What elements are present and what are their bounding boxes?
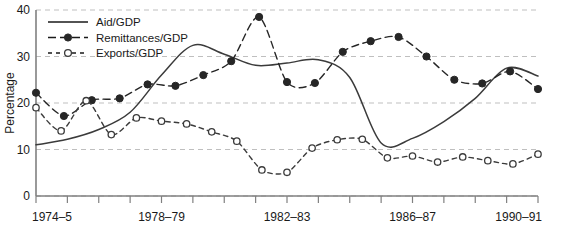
data-point [108, 131, 114, 137]
data-point [460, 154, 466, 160]
data-point [485, 157, 491, 163]
data-point [209, 129, 215, 135]
data-point [228, 58, 235, 65]
data-point [510, 161, 516, 167]
data-point [423, 53, 430, 60]
y-axis-title: Percentage [3, 72, 17, 134]
legend-marker-filled-circle [64, 34, 71, 41]
data-point [83, 97, 89, 103]
x-tick-label: 1974–5 [32, 210, 72, 224]
data-point [507, 68, 514, 75]
data-point [384, 155, 390, 161]
series-exports-gdp [33, 97, 541, 175]
data-point [172, 82, 179, 89]
data-point [200, 72, 207, 79]
data-point [311, 79, 318, 86]
y-tick-label: 30 [17, 50, 31, 64]
data-point [234, 138, 240, 144]
legend-marker-open-circle [65, 50, 72, 57]
legend-label: Aid/GDP [96, 16, 141, 28]
y-tick-label: 10 [17, 143, 31, 157]
data-point [133, 115, 139, 121]
legend-label: Remittances/GDP [96, 32, 188, 44]
data-point [479, 80, 486, 87]
data-point [309, 145, 315, 151]
percentage-line-chart: 010203040 1974–51978–791982–831986–87199… [0, 0, 564, 234]
x-axis-ticks [36, 196, 538, 203]
data-point [58, 128, 64, 134]
data-point [359, 136, 365, 142]
y-tick-label: 40 [17, 3, 31, 17]
data-point [451, 76, 458, 83]
series-remittances-gdp [32, 13, 541, 119]
y-tick-label: 20 [17, 96, 31, 110]
legend-label: Exports/GDP [96, 47, 163, 59]
x-tick-label: 1982–83 [264, 210, 311, 224]
data-point [259, 167, 265, 173]
data-point [183, 121, 189, 127]
data-point [339, 48, 346, 55]
data-point [283, 78, 290, 85]
data-point [32, 89, 39, 96]
x-axis-tick-labels: 1974–51978–791982–831986–871990–91 [32, 210, 542, 224]
data-point [334, 137, 340, 143]
data-point [144, 81, 151, 88]
data-point [33, 104, 39, 110]
legend-item-exports-gdp: Exports/GDP [48, 47, 163, 59]
legend-item-aid-gdp: Aid/GDP [48, 16, 141, 28]
data-point [535, 151, 541, 157]
y-axis-tick-labels: 010203040 [17, 3, 31, 203]
data-point [395, 33, 402, 40]
chart-figure: 010203040 1974–51978–791982–831986–87199… [0, 0, 564, 234]
data-point [434, 159, 440, 165]
legend-item-remittances-gdp: Remittances/GDP [48, 32, 188, 44]
data-point [60, 112, 67, 119]
y-tick-label: 0 [23, 189, 30, 203]
x-tick-label: 1986–87 [389, 210, 436, 224]
data-point [409, 153, 415, 159]
data-point [116, 95, 123, 102]
x-tick-label: 1990–91 [495, 210, 542, 224]
data-point [534, 85, 541, 92]
chart-legend: Aid/GDPRemittances/GDPExports/GDP [48, 16, 188, 59]
x-tick-label: 1978–79 [138, 210, 185, 224]
data-point [158, 118, 164, 124]
data-point [256, 13, 263, 20]
data-point [367, 38, 374, 45]
data-point [284, 169, 290, 175]
